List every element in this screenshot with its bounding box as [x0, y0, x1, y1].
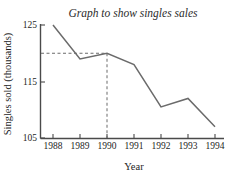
singles-sales-line-chart: Graph to show singles sales Singles sold…	[0, 0, 235, 175]
x-tick-label-1990: 1990	[98, 141, 117, 151]
x-tick-label-1994: 1994	[206, 141, 225, 151]
x-tick-label-1993: 1993	[179, 141, 198, 151]
data-series-line	[53, 25, 215, 127]
y-tick-label-115: 115	[23, 77, 37, 87]
y-tick-label-105: 105	[23, 133, 38, 143]
x-tick-label-1991: 1991	[125, 141, 144, 151]
x-tick-label-1988: 1988	[44, 141, 63, 151]
chart-screenshot: Graph to show singles sales Singles sold…	[0, 0, 235, 175]
y-tick-label-125: 125	[23, 20, 38, 30]
x-axis-label: Year	[124, 161, 144, 172]
y-axis-label: Singles sold (thousands)	[2, 32, 14, 135]
x-tick-label-1992: 1992	[152, 141, 171, 151]
x-tick-label-1989: 1989	[71, 141, 90, 151]
chart-title: Graph to show singles sales	[68, 7, 198, 20]
